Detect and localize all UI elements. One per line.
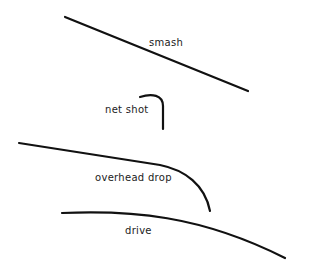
smash-trajectory — [65, 17, 248, 91]
drive-label: drive — [125, 225, 152, 236]
net-shot-label: net shot — [105, 104, 149, 115]
overhead-drop-label: overhead drop — [95, 172, 172, 183]
smash-label: smash — [149, 37, 183, 48]
drive-trajectory — [62, 212, 285, 258]
shot-trajectory-diagram: smash net shot overhead drop drive — [0, 0, 313, 271]
